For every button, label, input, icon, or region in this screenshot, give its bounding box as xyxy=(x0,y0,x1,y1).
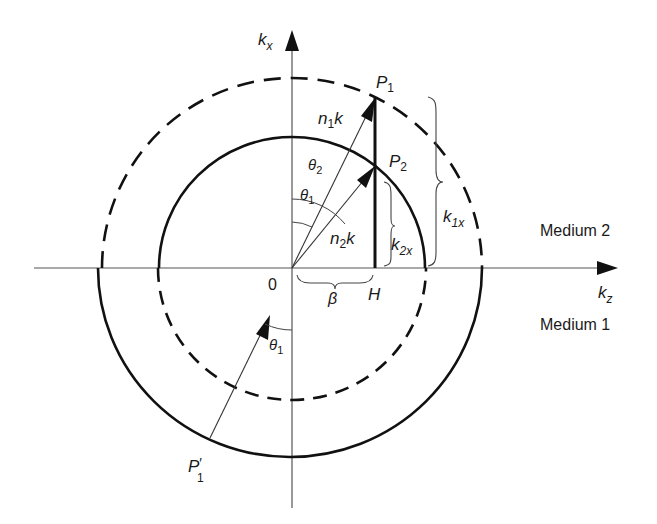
p2-label: P2 xyxy=(389,152,407,174)
outer-circle-lower-solid xyxy=(98,268,482,457)
k1x-brace xyxy=(428,97,443,266)
medium-1-label: Medium 1 xyxy=(540,316,610,333)
kx-arrowhead-icon xyxy=(285,30,299,51)
theta2-label: θ2 xyxy=(308,156,322,176)
medium-2-label: Medium 2 xyxy=(540,222,610,239)
kx-axis xyxy=(285,30,299,508)
kx-axis-label: kx xyxy=(258,30,274,53)
beta-brace xyxy=(297,275,373,289)
p1-prime-label: P′1 xyxy=(188,455,204,485)
theta1-arc-upper xyxy=(292,222,312,227)
n1k-label: n1k xyxy=(318,109,344,131)
wave-vector-diagram: kx kz 0 P1 P2 P′1 H n1k n2k θ2 θ1 θ1 k1x… xyxy=(0,0,657,524)
k2x-label: k2x xyxy=(391,235,413,258)
p1-label: P1 xyxy=(376,73,394,95)
origin-label: 0 xyxy=(268,276,277,293)
kz-arrowhead-icon xyxy=(597,261,618,275)
theta1-lower-label: θ1 xyxy=(269,336,283,356)
incident-arrowhead-icon xyxy=(256,315,270,340)
h-label: H xyxy=(368,285,381,304)
k1x-label: k1x xyxy=(443,207,465,230)
incident-vector xyxy=(210,323,266,438)
theta1-upper-label: θ1 xyxy=(300,186,314,206)
kz-axis-label: kz xyxy=(598,283,613,306)
kz-axis xyxy=(34,261,618,275)
beta-label: β xyxy=(327,290,337,307)
n2k-label: n2k xyxy=(330,229,356,251)
n2k-vector xyxy=(292,170,372,268)
n1k-arrowhead-icon xyxy=(361,98,375,122)
